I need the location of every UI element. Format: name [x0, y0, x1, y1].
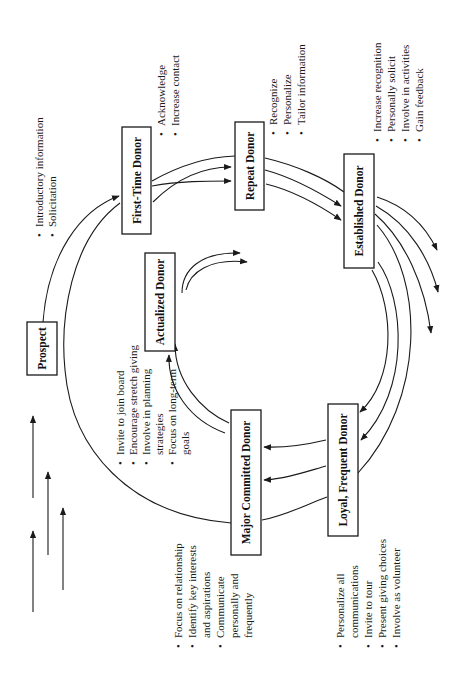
node-label: Major Committed Donor	[240, 421, 253, 545]
bullet-item: goals	[179, 432, 191, 455]
arrow-actualized-out	[182, 253, 240, 293]
arrow-actualized-out	[186, 261, 247, 290]
bullet-item: Tailor information	[295, 44, 307, 125]
bullets-first-time: • Acknowledge • Increase contact	[155, 55, 181, 136]
svg-text:•: •	[166, 461, 178, 465]
bullet-item: Involve in planning	[140, 368, 152, 455]
svg-text:•: •	[362, 644, 374, 648]
svg-text:•: •	[33, 233, 45, 237]
node-first-time-donor: First-Time Donor	[122, 127, 151, 234]
bullet-item: Increase recognition	[371, 42, 383, 132]
node-label: Actualized Donor	[154, 259, 166, 346]
node-established-donor: Established Donor	[344, 154, 374, 268]
svg-text:•: •	[155, 132, 167, 136]
arrow-established-out	[377, 197, 437, 250]
svg-text:•: •	[169, 132, 181, 136]
arrow-major-to-actualized	[175, 344, 229, 423]
bullet-item: Encourage stretch giving	[127, 345, 139, 455]
svg-text:•: •	[172, 644, 184, 648]
node-actualized-donor: Actualized Donor	[145, 253, 175, 351]
bullets-loyal: • Personalize all communications • Invit…	[334, 539, 402, 648]
bullet-item: strategies	[153, 413, 165, 455]
bullets-repeat: • Recognize • Personalize • Tailor infor…	[267, 44, 307, 135]
arrow-repeat-to-established	[265, 170, 341, 206]
svg-text:•: •	[334, 644, 346, 648]
node-loyal-frequent-donor: Loyal, Frequent Donor	[328, 404, 358, 536]
bullet-item: Invite to join board	[114, 370, 126, 455]
arrow-loyal-to-major	[262, 497, 327, 520]
bullet-item: Acknowledge	[155, 65, 167, 126]
bullet-item: Recognize	[267, 78, 279, 125]
svg-text:•: •	[399, 138, 411, 142]
bullet-item: Identify key interests	[186, 545, 198, 638]
arrow-established-out	[376, 206, 438, 292]
node-major-committed-donor: Major Committed Donor	[231, 410, 261, 555]
bullet-item: and aspirations	[200, 572, 212, 638]
bullet-item: frequently	[242, 592, 254, 638]
arrow-loyal-to-major	[264, 440, 326, 447]
arrow-established-to-loyal	[360, 270, 388, 412]
bullet-item: Involve in activities	[399, 45, 411, 132]
bullet-item: Present giving choices	[376, 539, 388, 638]
svg-text:•: •	[295, 131, 307, 135]
svg-text:•: •	[413, 138, 425, 142]
svg-text:•: •	[127, 461, 139, 465]
arrow-first-time-to-repeat	[152, 156, 235, 181]
arrow-first-time-to-repeat	[152, 181, 231, 186]
arc-first-time-to-major	[64, 203, 231, 523]
svg-text:•: •	[114, 461, 126, 465]
svg-text:•: •	[385, 138, 397, 142]
bullet-item: Introductory information	[33, 117, 45, 227]
node-label: Repeat Donor	[244, 132, 257, 201]
bullets-prospect: • Introductory information • Solicitatio…	[33, 117, 58, 237]
node-label: Established Donor	[353, 165, 365, 256]
node-label: Prospect	[36, 327, 49, 370]
bullet-item: Personalize all	[334, 574, 346, 638]
donor-cycle-diagram: Prospect First-Time Donor Repeat Donor E…	[0, 0, 470, 682]
node-label: Loyal, Frequent Donor	[337, 413, 350, 526]
svg-text:•: •	[390, 644, 402, 648]
bullet-item: Communicate	[214, 576, 226, 638]
bullet-item: Solicitation	[46, 176, 58, 227]
node-label: First-Time Donor	[131, 137, 143, 224]
svg-text:•: •	[186, 644, 198, 648]
bullet-item: Focus on long-term	[166, 368, 178, 455]
svg-text:•: •	[267, 131, 279, 135]
bullets-relationship: • Focus on relationship • Identify key i…	[172, 543, 254, 648]
arrow-repeat-to-established	[266, 184, 341, 220]
bullet-item: communications	[348, 565, 360, 638]
legend-arrows	[33, 416, 63, 612]
node-prospect: Prospect	[27, 322, 57, 375]
svg-text:•: •	[46, 233, 58, 237]
svg-text:•: •	[214, 644, 226, 648]
arrow-loyal-to-major	[264, 466, 326, 480]
bullet-item: Invite to tour	[362, 580, 374, 638]
bullet-item: Involve as volunteer	[390, 548, 402, 638]
bullets-established: • Increase recognition • Personally soli…	[371, 42, 425, 142]
svg-text:•: •	[376, 644, 388, 648]
bullet-item: Personally solicit	[385, 56, 397, 132]
bullet-item: personally and	[228, 573, 240, 638]
node-repeat-donor: Repeat Donor	[235, 122, 264, 210]
arrow-established-to-loyal	[361, 262, 398, 440]
svg-text:•: •	[281, 131, 293, 135]
bullet-item: Focus on relationship	[172, 543, 184, 638]
bullet-item: Gain feedback	[413, 68, 425, 132]
svg-text:•: •	[371, 138, 383, 142]
bullet-item: Personalize	[281, 74, 293, 125]
bullets-major: • Invite to join board • Encourage stret…	[114, 345, 191, 465]
svg-text:•: •	[140, 461, 152, 465]
bullet-item: Increase contact	[169, 55, 181, 126]
